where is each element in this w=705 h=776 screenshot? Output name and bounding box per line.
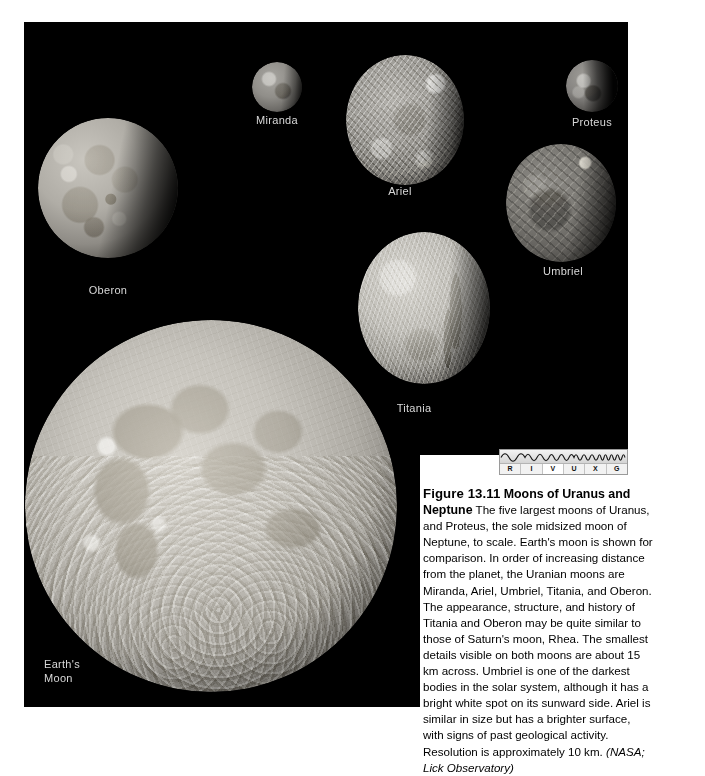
moon-umbriel [506,144,616,262]
earths-moon-upper-clip [24,320,420,456]
moon-ariel [346,55,464,185]
moon-proteus [566,60,618,112]
earths-moon-limb-shadow-upper [25,320,397,456]
miranda-terminator-shadow [252,62,302,112]
band-x[interactable]: X [585,464,606,474]
earths-moon-limb-shadow [25,455,397,692]
figure-number: Figure 13.11 [423,486,500,501]
umbriel-terminator-shadow [506,144,616,262]
figure-body-text: The five largest moons of Uranus, and Pr… [423,503,653,757]
figure-caption: Figure 13.11 Moons of Uranus and Neptune… [423,486,653,776]
band-g[interactable]: G [607,464,627,474]
band-u[interactable]: U [564,464,585,474]
moon-earths-moon-upper [25,320,397,456]
moon-label-earths-moon: Earth's Moon [44,658,114,686]
ariel-terminator-shadow [346,55,464,185]
moon-earths-moon-lower [25,455,397,692]
moon-miranda [252,62,302,112]
rivuxg-spectrum-bar: R I V U X G [499,449,628,475]
band-r[interactable]: R [500,464,521,474]
oberon-terminator-shadow [38,118,178,258]
rivuxg-band-row: R I V U X G [500,463,627,474]
moon-label-umbriel: Umbriel [521,265,605,279]
band-i[interactable]: I [521,464,542,474]
band-v[interactable]: V [543,464,564,474]
proteus-terminator-shadow [566,60,618,112]
figure-photo-plate-lower: Earth's Moon [24,455,420,707]
moon-label-ariel: Ariel [360,185,440,199]
moon-oberon [38,118,178,258]
moon-label-miranda: Miranda [237,114,317,128]
moon-label-oberon: Oberon [68,284,148,298]
moon-label-proteus: Proteus [550,116,628,130]
